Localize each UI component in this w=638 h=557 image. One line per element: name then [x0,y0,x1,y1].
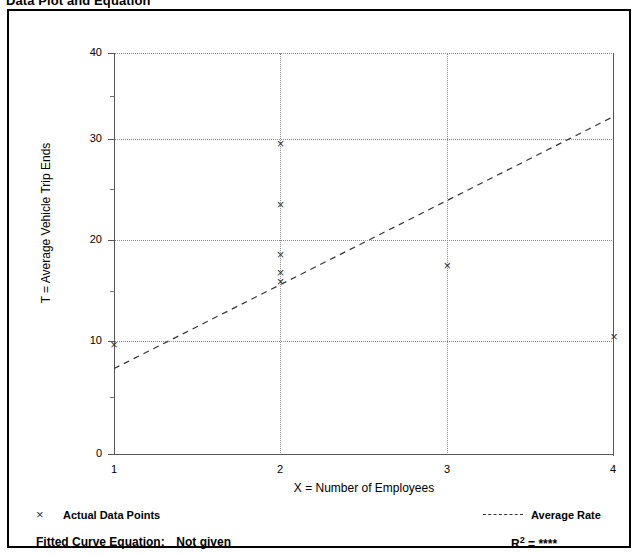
page-title: Data Plot and Equation [6,0,150,8]
y-axis-title: T = Average Vehicle Trip Ends [39,83,53,363]
r-squared-exponent: 2 [520,535,525,545]
data-point [442,260,453,271]
xtick-label-3: 3 [432,464,462,475]
data-point [275,138,286,149]
x-axis-title: X = Number of Employees [114,481,614,495]
chart-card: 40 30 20 10 0 1 2 3 4 T = Average Vehicl… [7,9,631,548]
ytick-label-30: 30 [62,133,102,144]
fitted-curve-equation-label: Fitted Curve Equation: [36,535,165,549]
r-squared-result: **** [538,537,557,551]
data-point [275,199,286,210]
r-squared-value: R2 = **** [511,535,557,551]
data-point [109,339,120,350]
legend-label-actual-data-points: Actual Data Points [63,509,160,521]
xtick-label-1: 1 [99,464,129,475]
legend-dash-average-rate-icon [483,514,523,515]
ytick-label-40: 40 [62,47,102,58]
ytick-label-0: 0 [62,448,102,459]
legend-marker-x-icon: × [36,508,44,521]
fitted-curve-equation: Fitted Curve Equation: Not given [36,535,231,549]
average-rate-trendline [114,53,614,455]
data-point [275,276,286,287]
r-squared-label: R [511,537,520,551]
r-squared-equals: = [528,537,535,551]
fitted-curve-equation-value: Not given [176,535,231,549]
legend-label-average-rate: Average Rate [531,509,601,521]
ytick-label-20: 20 [62,234,102,245]
data-point [609,331,620,342]
xtick-label-4: 4 [598,464,628,475]
data-point [275,249,286,260]
ytick-label-10: 10 [62,335,102,346]
xtick-label-2: 2 [265,464,295,475]
